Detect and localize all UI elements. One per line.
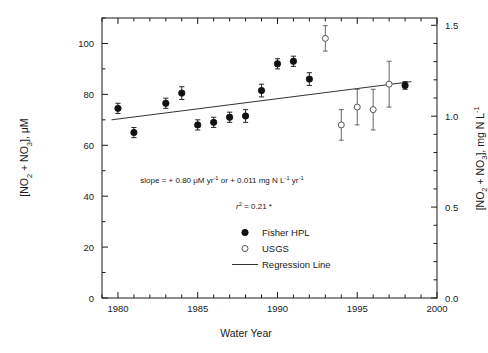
- y-right-tick-label: 1.5: [445, 20, 458, 31]
- data-point: [402, 82, 408, 88]
- data-point: [131, 129, 137, 135]
- y-left-tick-label: 0: [89, 293, 94, 304]
- plot-frame: [102, 18, 437, 298]
- legend-label: Fisher HPL: [262, 227, 310, 238]
- data-point: [163, 100, 169, 106]
- data-point: [386, 81, 392, 87]
- y-right-tick-label: 0.5: [445, 202, 458, 213]
- data-point: [322, 35, 328, 41]
- y-left-tick-label: 80: [83, 89, 94, 100]
- data-point: [354, 104, 360, 110]
- legend-marker-open-circle: [242, 246, 248, 252]
- x-tick-label: 1980: [107, 303, 128, 314]
- y-left-tick-label: 100: [78, 38, 94, 49]
- y-left-tick-label: 60: [83, 140, 94, 151]
- y-right-tick-label: 0.0: [445, 293, 458, 304]
- y-axis-left-label: [NO2 + NO3], μM: [18, 88, 33, 228]
- legend-label: Regression Line: [262, 259, 331, 270]
- x-tick-label: 1985: [187, 303, 208, 314]
- data-point: [242, 113, 248, 119]
- data-point: [210, 119, 216, 125]
- r-squared-annotation: r2 = 0.21 *: [236, 201, 272, 211]
- x-axis-tick-labels: 19801985199019952000: [107, 303, 447, 314]
- legend-label: USGS: [262, 243, 289, 254]
- data-point: [338, 122, 344, 128]
- x-tick-label: 1995: [347, 303, 368, 314]
- series-usgs: [322, 26, 392, 141]
- slope-annotation: slope = + 0.80 μM yr-1 or + 0.011 mg N L…: [140, 175, 303, 185]
- chart-annotations: slope = + 0.80 μM yr-1 or + 0.011 mg N L…: [140, 175, 303, 211]
- chart-legend: Fisher HPLUSGSRegression Line: [232, 227, 331, 270]
- y-axis-right-label: [NO2 + NO3], mg N L-1: [472, 78, 488, 238]
- data-point: [226, 114, 232, 120]
- data-point: [258, 87, 264, 93]
- y-left-tick-label: 20: [83, 242, 94, 253]
- data-point: [306, 76, 312, 82]
- y-axis-left-tick-labels: 020406080100: [78, 38, 94, 304]
- legend-marker-filled-circle: [242, 229, 248, 235]
- x-tick-label: 2000: [426, 303, 447, 314]
- data-point: [195, 122, 201, 128]
- y-axis-left-ticks: [102, 18, 108, 298]
- data-point: [274, 61, 280, 67]
- data-point: [115, 105, 121, 111]
- y-axis-right-tick-labels: 0.00.51.01.5: [445, 20, 458, 304]
- x-tick-label: 1990: [267, 303, 288, 314]
- data-point: [290, 58, 296, 64]
- x-axis-ticks: [102, 18, 437, 298]
- series-fisher-hpl: [115, 56, 409, 137]
- y-axis-right-ticks: [431, 25, 437, 298]
- y-right-tick-label: 1.0: [445, 111, 458, 122]
- y-left-tick-label: 40: [83, 191, 94, 202]
- x-axis-label: Water Year: [186, 327, 306, 339]
- data-point: [370, 107, 376, 113]
- data-point: [179, 90, 185, 96]
